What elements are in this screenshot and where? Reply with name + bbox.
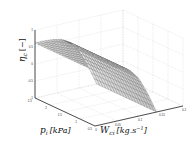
tick-label: 2 — [45, 106, 47, 110]
tick-label: 0.5 — [29, 45, 34, 49]
tick-label: 0.15 — [159, 113, 165, 117]
x-axis-label: Wci[kg.s−1] — [100, 125, 148, 136]
tick-label: 1 — [31, 28, 33, 32]
tick-label: 0.5 — [88, 127, 93, 131]
tick-label: -0.5 — [28, 79, 34, 83]
tick-label: 1.5 — [58, 113, 63, 117]
surface-mesh — [35, 39, 157, 112]
tick-label: 2.5 — [28, 99, 33, 103]
tick-label: 0.1 — [138, 118, 143, 122]
z-axis-label: ηc[−] — [17, 38, 28, 62]
y-axis-label: pi[kPa] — [40, 125, 71, 136]
tick-label: 0 — [31, 62, 33, 66]
tick-label: 1 — [75, 120, 77, 124]
tick-label: 0 — [95, 128, 97, 132]
surface-plot: -1-0.500.512.521.510.500.050.10.150.2 ηc… — [0, 0, 196, 149]
tick-label: 0.2 — [182, 108, 187, 112]
